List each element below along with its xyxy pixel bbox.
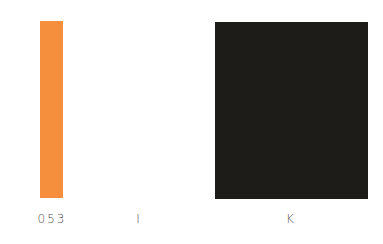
- swatch-label-K: K: [286, 212, 296, 226]
- swatch-label-053: 053: [38, 212, 67, 226]
- swatch-053: [40, 21, 63, 198]
- swatch-I: [100, 21, 180, 198]
- swatch-K: [215, 22, 368, 199]
- swatch-label-I: I: [136, 212, 142, 226]
